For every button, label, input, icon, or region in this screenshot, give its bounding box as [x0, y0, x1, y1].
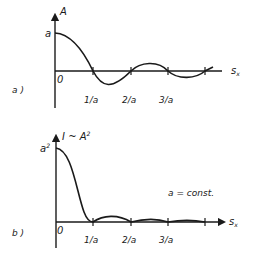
panel-label: a ) — [12, 85, 24, 95]
tick-label-1: 1/a — [84, 95, 98, 105]
y-intercept-label: a — [45, 28, 51, 39]
annotation: a = const. — [168, 188, 214, 198]
origin-label: 0 — [57, 225, 63, 236]
tick-label-2: 2/a — [122, 235, 136, 245]
panel-label: b ) — [12, 228, 24, 238]
x-axis-label: sx — [229, 216, 238, 228]
y-axis-label: A — [59, 6, 67, 17]
amplitude-curve — [55, 33, 213, 85]
diffraction-diagram: A a 0 a ) 1/a 2/a 3/a sx I ~ A2 a2 0 b )… — [0, 0, 257, 258]
tick-label-3: 3/a — [159, 235, 173, 245]
tick-label-1: 1/a — [84, 235, 98, 245]
y-intercept-label: a2 — [40, 142, 50, 154]
intensity-curve — [56, 148, 205, 222]
panel-b: I ~ A2 a2 0 b ) 1/a 2/a 3/a a = const. s… — [12, 130, 238, 248]
x-axis-label: sx — [231, 65, 240, 77]
tick-label-3: 3/a — [159, 95, 173, 105]
y-axis-label: I ~ A2 — [62, 130, 91, 142]
tick-label-2: 2/a — [122, 95, 136, 105]
panel-a: A a 0 a ) 1/a 2/a 3/a sx — [12, 6, 240, 108]
origin-label: 0 — [57, 74, 63, 85]
